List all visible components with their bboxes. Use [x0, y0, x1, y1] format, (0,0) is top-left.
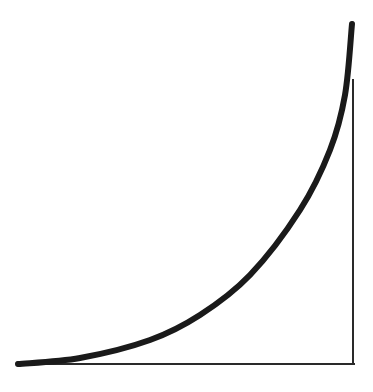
background — [0, 0, 373, 392]
curve-diagram — [0, 0, 373, 392]
